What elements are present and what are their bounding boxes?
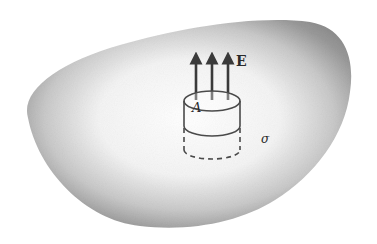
surface-charge-label: σ <box>261 132 270 146</box>
field-label: E <box>236 53 247 69</box>
figure: E A σ <box>0 0 377 244</box>
conductor-body <box>27 20 351 228</box>
area-label: A <box>191 100 201 115</box>
